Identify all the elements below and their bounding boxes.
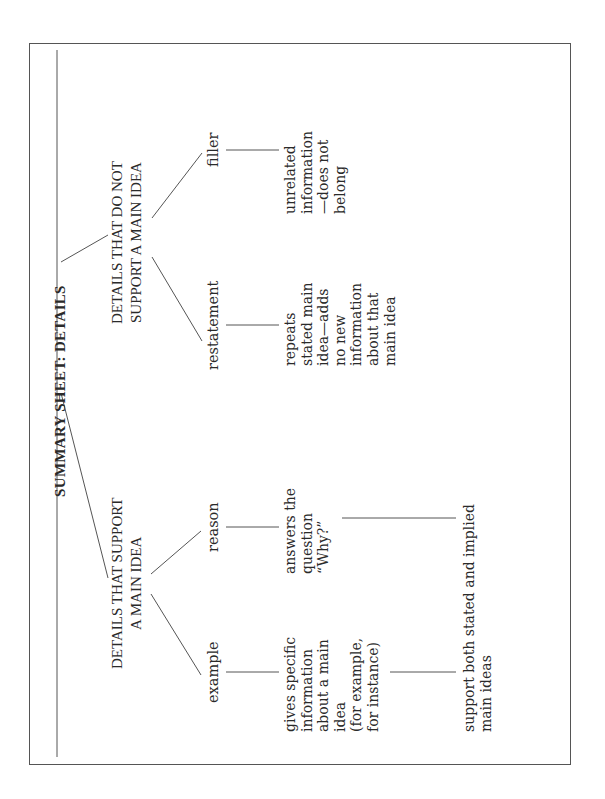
heading-not-support-line1: DETAILS THAT DO NOT [109, 162, 125, 325]
node-reason: reason [205, 490, 222, 564]
page-title: SUMMARY SHEET: DETAILS [35, 308, 68, 505]
heading-support-line1: DETAILS THAT SUPPORT [109, 497, 125, 669]
heading-not-support-line2: SUPPORT A MAIN IDEA [128, 163, 144, 324]
node-restatement: restatement [205, 276, 222, 374]
heading-support: DETAILS THAT SUPPORT A MAIN IDEA [108, 478, 146, 688]
heading-support-line2: A MAIN IDEA [128, 536, 144, 629]
desc-reason: answers the question “Why?” [282, 468, 332, 574]
shared-note-support: support both stated and implied main ide… [461, 430, 494, 732]
desc-example: gives specific information about a main … [282, 590, 382, 732]
desc-filler: unrelated information —does not belong [282, 110, 348, 214]
node-example: example [205, 630, 222, 714]
page-title-text: SUMMARY SHEET: DETAILS [52, 285, 68, 497]
node-filler: filler [205, 120, 222, 180]
desc-restatement: repeats stated main idea—adds no new inf… [282, 270, 398, 366]
heading-not-support: DETAILS THAT DO NOT SUPPORT A MAIN IDEA [108, 142, 146, 344]
